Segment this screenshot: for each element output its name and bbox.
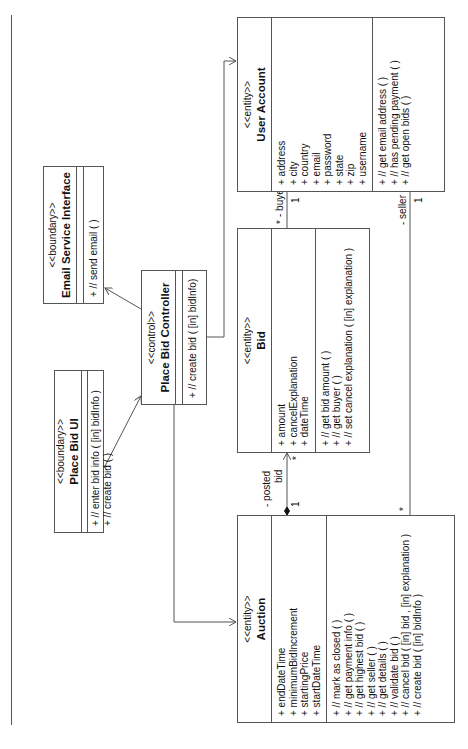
attribute: + zip <box>345 24 357 185</box>
operation: + // has pending payment ( ) <box>389 24 401 185</box>
operations-section: + // create bid ( [in] bidInfo) <box>183 271 206 404</box>
attributes-section: + amount + cancelExplanation + dateTime <box>272 229 316 452</box>
buyer-mult-bid: * <box>275 220 286 224</box>
attribute: + endDateTime <box>276 522 288 716</box>
operation: + // get open bids ( ) <box>400 24 412 185</box>
attribute: + state <box>334 24 346 185</box>
attribute: + dateTime <box>299 235 311 446</box>
class-email-service-interface[interactable]: <<boundary>> Email Service Interface + /… <box>43 166 104 304</box>
stereotype: <<entity>> <box>242 18 254 191</box>
seller-role-label: - seller <box>397 195 408 225</box>
stereotype: <<entity>> <box>242 229 254 452</box>
uml-class-diagram: - buyer 1 * - seller 1 * - posted bid 1 … <box>0 0 468 749</box>
attribute: + startDateTime <box>311 522 323 716</box>
attributes-section: + address + city + country + email + pas… <box>272 18 373 191</box>
stereotype: <<control>> <box>146 271 158 404</box>
attribute: + email <box>311 24 323 185</box>
operation: + // create bid ( [in] bidInfo) <box>187 277 199 398</box>
operation: + // get payment info ( ) <box>343 522 355 716</box>
class-name: Email Service Interface <box>59 167 73 303</box>
operation: + // validate bid ( ) <box>389 522 401 716</box>
class-header: <<boundary>> Email Service Interface <box>44 167 77 303</box>
class-header: <<entity>> User Account <box>238 18 272 191</box>
class-header: <<entity>> Auction <box>238 516 272 722</box>
class-name: Auction <box>254 516 268 722</box>
posted-mult-auction: 1 <box>290 501 301 507</box>
operation: + // enter bid info ( [in] bidInfo ) <box>90 377 102 526</box>
operation: + // get bid amount ( ) <box>320 235 332 446</box>
seller-mult-account: 1 <box>413 197 424 203</box>
operations-section: + // enter bid info ( [in] bidInfo ) + /… <box>88 371 115 532</box>
operations-section: + // get bid amount ( ) + // get buyer (… <box>316 229 370 452</box>
operation: + // cancel bid ( [in] bid , [in] explan… <box>400 522 412 716</box>
operation: + // get email address ( ) <box>377 24 389 185</box>
operation: + // send email ( ) <box>88 173 100 297</box>
attribute: + cancelExplanation <box>288 235 300 446</box>
operation: + // mark as closed ( ) <box>331 522 343 716</box>
stereotype: <<entity>> <box>242 516 254 722</box>
operation: + // get buyer ( ) <box>331 235 343 446</box>
class-name: Place Bid Controller <box>158 271 172 404</box>
operation: + // set cancel explanation ( [in] expla… <box>343 235 355 446</box>
stereotype: <<boundary>> <box>55 371 67 532</box>
buyer-mult-account: 1 <box>290 197 301 203</box>
stereotype: <<boundary>> <box>47 167 59 303</box>
operation: + // get details ( ) <box>377 522 389 716</box>
attributes-section: + endDateTime + minimumBidIncrement + st… <box>272 516 327 722</box>
attributes-section <box>176 271 183 404</box>
class-name: Place Bid UI <box>67 371 81 532</box>
class-header: <<entity>> Bid <box>238 229 272 452</box>
attribute: + startingPrice <box>299 522 311 716</box>
seller-mult-auction: * <box>398 507 409 511</box>
class-header: <<control>> Place Bid Controller <box>142 271 176 404</box>
operation: + // get seller ( ) <box>366 522 378 716</box>
class-name: Bid <box>254 229 268 452</box>
class-user-account[interactable]: <<entity>> User Account + address + city… <box>237 17 445 192</box>
class-bid[interactable]: <<entity>> Bid + amount + cancelExplanat… <box>237 228 370 453</box>
attribute: + city <box>288 24 300 185</box>
attributes-section <box>77 167 84 303</box>
operations-section: + // get email address ( ) + // has pend… <box>373 18 444 191</box>
attribute: + password <box>322 24 334 185</box>
class-auction[interactable]: <<entity>> Auction + endDateTime + minim… <box>237 515 455 723</box>
attribute: + address <box>276 24 288 185</box>
class-place-bid-ui[interactable]: <<boundary>> Place Bid UI + // enter bid… <box>54 370 104 533</box>
attribute: + username <box>357 24 369 185</box>
operations-section: + // mark as closed ( ) + // get payment… <box>327 516 454 722</box>
operation: + // create bid ( ) <box>102 377 114 526</box>
attribute: + amount <box>276 235 288 446</box>
class-place-bid-controller[interactable]: <<control>> Place Bid Controller + // cr… <box>141 270 207 405</box>
class-name: User Account <box>254 18 268 191</box>
attribute: + minimumBidIncrement <box>288 522 300 716</box>
posted-role-label-2: bid <box>273 470 284 483</box>
class-header: <<boundary>> Place Bid UI <box>55 371 82 532</box>
operation: + // get highest bid ( ) <box>354 522 366 716</box>
operation: + // create bid ( [in] bidInfo ) <box>412 522 424 716</box>
attribute: + country <box>299 24 311 185</box>
operations-section: + // send email ( ) <box>84 167 104 303</box>
posted-mult-bid: * <box>291 456 302 460</box>
posted-role-label: - posted <box>261 471 272 507</box>
